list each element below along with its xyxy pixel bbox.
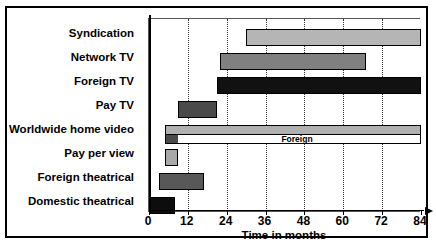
bar-domestic-theatrical	[150, 197, 176, 214]
gridline-60	[343, 19, 344, 211]
gridline-36	[266, 19, 267, 211]
category-label: Syndication	[69, 26, 134, 40]
bar-annotation-foreign: Foreign	[281, 134, 312, 144]
gridline-24	[227, 19, 228, 211]
category-label: Domestic theatrical	[28, 194, 134, 208]
bar-pay-tv	[178, 101, 217, 118]
x-tick-label: 0	[145, 214, 152, 228]
chart-frame: Syndication Network TV Foreign TV Pay TV…	[5, 6, 428, 238]
category-label: Worldwide home video	[9, 122, 134, 136]
category-label: Pay per view	[64, 146, 134, 160]
x-tick-label: 36	[258, 214, 271, 228]
plot-area: Foreign	[148, 18, 420, 212]
x-tick-label: 84	[413, 214, 426, 228]
bar-foreign-tv	[217, 77, 421, 94]
y-axis-line	[149, 15, 151, 211]
x-axis-title: Time in months	[148, 229, 420, 241]
category-label: Network TV	[71, 50, 134, 64]
category-label: Foreign theatrical	[38, 170, 135, 184]
bar-pay-per-view	[165, 149, 178, 166]
x-tick-label: 60	[336, 214, 349, 228]
x-tick-label: 72	[374, 214, 387, 228]
x-axis-tick-labels: 0 12 24 36 48 60 72 84	[148, 214, 436, 230]
gridline-48	[304, 19, 305, 211]
bar-worldwide-home-video-upper	[165, 125, 421, 134]
bar-foreign-theatrical	[159, 173, 204, 190]
category-label: Foreign TV	[74, 74, 134, 88]
bar-worldwide-home-video-domestic-segment	[166, 135, 178, 143]
x-tick-label: 12	[180, 214, 193, 228]
category-label: Pay TV	[96, 98, 134, 112]
category-axis-labels: Syndication Network TV Foreign TV Pay TV…	[7, 8, 140, 203]
x-tick-label: 24	[219, 214, 232, 228]
bar-syndication	[246, 29, 421, 46]
x-tick-label: 48	[297, 214, 310, 228]
gridline-72	[382, 19, 383, 211]
bar-network-tv	[220, 53, 366, 70]
